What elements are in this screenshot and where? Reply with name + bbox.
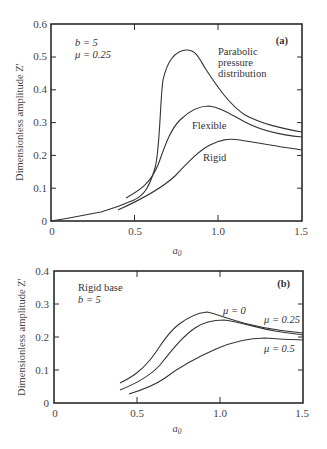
panel-b-ytick-3: 0.3 [35, 298, 49, 310]
panel-b-xtick-3: 1.5 [295, 407, 309, 419]
panel-b: 0 0.1 0.2 0.3 0.4 0 0.5 1.0 1.5 a0 Dimen… [16, 265, 309, 436]
panel-a-ytick-3: 0.3 [33, 116, 47, 128]
panel-a-ytick-0: 0 [42, 215, 48, 227]
panel-b-ytick-4: 0.4 [35, 265, 49, 277]
curve-label-rigid: Rigid [203, 152, 227, 163]
panel-a-xtick-2: 1.0 [211, 225, 225, 237]
panel-a-ytick-5: 0.5 [33, 50, 47, 62]
panel-a: 0 0.1 0.2 0.3 0.4 0.5 0.6 0 0.5 1.0 1.5 … [14, 18, 308, 258]
panel-a-ytick-6: 0.6 [33, 18, 47, 30]
panel-b-ytick-1: 0.1 [35, 364, 49, 376]
curve-label-mu05: μ = 0.5 [263, 343, 295, 354]
curve-label-parabolic-1: Parabolic [218, 46, 258, 57]
curve-mu-0-25 [120, 320, 303, 390]
curve-label-mu025: μ = 0.25 [263, 314, 300, 325]
panel-b-ytick-2: 0.2 [35, 331, 49, 343]
panel-a-note-mu: μ = 0.25 [74, 49, 111, 60]
panel-a-xtick-1: 0.5 [128, 225, 142, 237]
panel-a-xtick-3: 1.5 [294, 225, 308, 237]
panel-b-note-2: b = 5 [78, 294, 101, 305]
panel-a-xtick-0: 0 [49, 225, 55, 237]
panel-a-y-axis-label: Dimensionless amplitude Z′ [14, 63, 25, 181]
curve-label-parabolic-3: distribution [218, 68, 267, 79]
curve-label-mu0: μ = 0 [222, 305, 247, 316]
figure: 0 0.1 0.2 0.3 0.4 0.5 0.6 0 0.5 1.0 1.5 … [0, 0, 327, 449]
panel-a-label: (a) [276, 35, 289, 47]
curve-label-flexible: Flexible [192, 120, 227, 131]
panel-b-ytick-0: 0 [44, 397, 50, 409]
panel-b-xtick-0: 0 [52, 407, 58, 419]
panel-b-label: (b) [277, 278, 290, 290]
panel-a-ytick-4: 0.4 [33, 83, 47, 95]
panel-a-ytick-2: 0.2 [33, 149, 47, 161]
panel-b-x-ticks [137, 271, 220, 403]
curve-label-parabolic-2: pressure [218, 57, 253, 68]
panel-b-xtick-2: 1.0 [213, 407, 227, 419]
curve-rigid [118, 139, 302, 210]
panel-b-note-1: Rigid base [78, 282, 123, 293]
panel-b-x-axis-label: a0 [173, 423, 182, 436]
panel-a-note-b: b = 5 [75, 37, 98, 48]
panel-b-y-axis-label: Dimensionless amplitude Z′ [16, 278, 27, 396]
panel-a-x-axis-label: a0 [173, 245, 182, 258]
panel-a-ytick-1: 0.1 [33, 182, 47, 194]
panel-b-xtick-1: 0.5 [130, 407, 144, 419]
